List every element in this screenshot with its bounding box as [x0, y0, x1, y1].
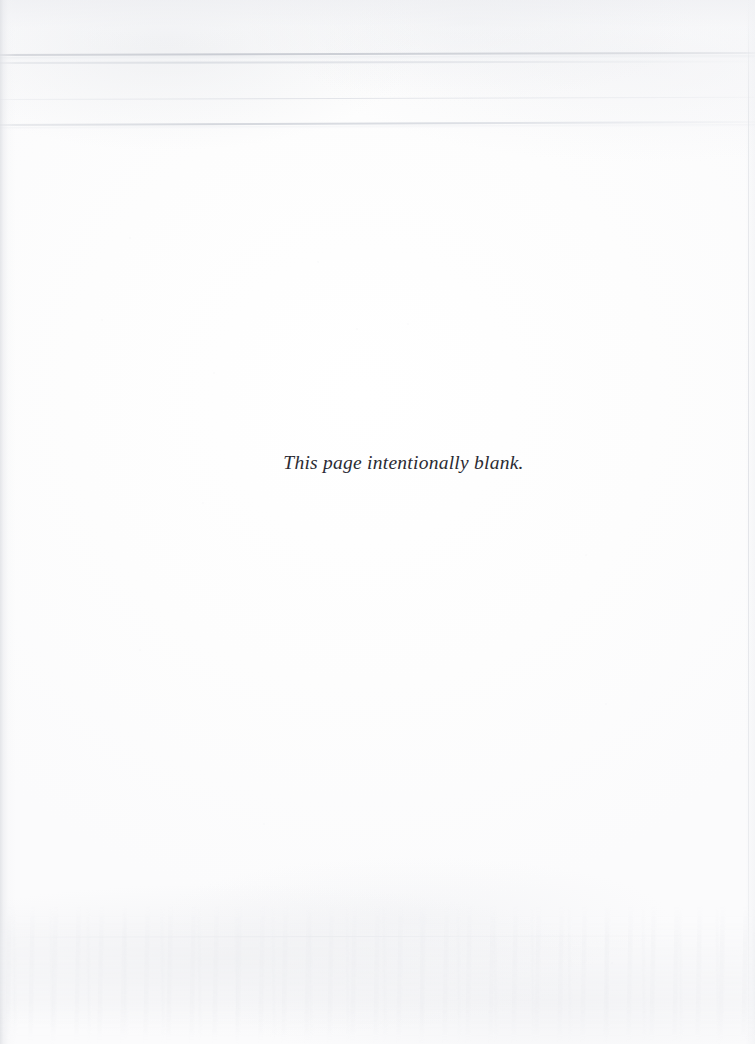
- scanned-page: This page intentionally blank.: [0, 0, 755, 1044]
- paper-background: [0, 0, 755, 1044]
